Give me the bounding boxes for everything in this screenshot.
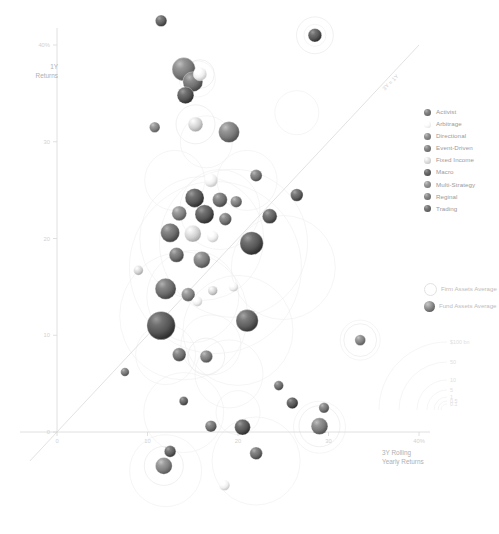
svg-text:40%: 40% [413,438,425,444]
bubble-point[interactable] [291,189,304,202]
legend-item-macro[interactable]: Macro [424,166,499,178]
bubble-point[interactable] [149,122,160,133]
bubble-point[interactable] [262,209,277,224]
firm-assets-circle-icon [424,283,437,296]
bubble-point[interactable] [155,458,172,475]
legend-sphere-icon [424,109,431,116]
bubble-point[interactable] [179,397,188,406]
bubble-chart: 010203040%010203040%3Y = 1Y 1Y Returns 3… [0,0,499,534]
legend-item-label: Fixed Income [436,157,474,163]
bubble-point[interactable] [172,348,186,362]
bubble-point[interactable] [193,67,207,81]
legend-sphere-icon [424,169,431,176]
svg-text:0: 0 [47,429,50,435]
legend-sphere-icon [424,121,431,128]
bubble-point[interactable] [229,282,239,292]
bubble-point[interactable] [161,223,180,242]
bubble-point[interactable] [192,296,202,306]
svg-text:30: 30 [44,139,50,145]
bubble-point[interactable] [287,397,299,409]
bubble-point[interactable] [147,311,175,339]
bubble-point[interactable] [193,251,210,268]
svg-text:10: 10 [144,438,150,444]
svg-text:0: 0 [55,438,58,444]
bubble-point[interactable] [240,232,263,255]
bubble-point[interactable] [250,170,262,182]
bubble-point[interactable] [177,87,194,104]
identity-reference-line [30,45,419,461]
bubble-point[interactable] [195,205,214,224]
legend-item-trading[interactable]: Trading [424,203,499,215]
bubble-point[interactable] [204,174,218,188]
legend-sphere-icon [424,157,431,164]
bubble-point[interactable] [169,248,184,263]
bubble-point[interactable] [155,15,167,27]
legend-item-label: Reginal [436,194,458,200]
legend-item-label: Event-Driven [436,145,473,151]
bubble-point[interactable] [188,117,203,132]
bubble-point[interactable] [205,420,217,432]
bubble-point[interactable] [250,447,263,460]
bubble-point[interactable] [184,225,201,242]
legend-item-label: Activist [436,109,456,115]
category-legend: ActivistArbitrageDirectionalEvent-Driven… [424,106,499,215]
bubble-point[interactable] [274,381,284,391]
size-scale-arcs [379,342,447,410]
x-axis-title: 3Y Rolling Yearly Returns [382,448,424,467]
bubble-series [121,15,366,491]
bubble-point[interactable] [219,480,230,491]
bubble-point[interactable] [230,196,242,208]
bubble-point[interactable] [319,403,329,413]
legend-item-activist[interactable]: Activist [424,106,499,118]
bubble-point[interactable] [213,192,228,207]
svg-text:30: 30 [325,438,331,444]
svg-text:20: 20 [235,438,241,444]
bubble-point[interactable] [308,29,322,43]
svg-text:10: 10 [44,332,50,338]
bubble-point[interactable] [207,231,219,243]
size-legend-fund-row: Fund Assets Average [424,301,499,312]
legend-sphere-icon [424,181,431,188]
svg-text:20: 20 [44,236,50,242]
bubble-point[interactable] [164,446,176,458]
bubble-point[interactable] [219,213,232,226]
bubble-point[interactable] [155,278,176,299]
legend-item-directional[interactable]: Directional [424,130,499,142]
legend-sphere-icon [424,133,431,140]
fund-assets-sphere-icon [424,301,435,312]
legend-item-label: Multi-Strategy [436,182,475,188]
legend-sphere-icon [424,193,431,200]
legend-item-label: Macro [436,169,454,175]
legend-item-reginal[interactable]: Reginal [424,191,499,203]
bubble-point[interactable] [185,188,204,207]
svg-text:40%: 40% [38,42,50,48]
legend-item-label: Arbitrage [436,121,462,127]
legend-item-arbitrage[interactable]: Arbitrage [424,118,499,130]
fund-assets-label: Fund Assets Average [439,302,496,310]
legend-item-fixed-income[interactable]: Fixed Income [424,154,499,166]
bubble-point[interactable] [200,350,213,363]
firm-assets-label: Firm Assets Average [441,285,497,293]
size-legend: Firm Assets Average Fund Assets Average [424,283,499,317]
legend-sphere-icon [424,145,431,152]
bubble-point[interactable] [355,335,366,346]
legend-item-label: Directional [436,133,466,139]
legend-item-label: Trading [436,206,457,212]
bubble-point[interactable] [208,286,218,296]
size-legend-firm-row: Firm Assets Average [424,283,499,296]
plot-area: 010203040%010203040%3Y = 1Y [0,0,499,534]
axis-ticks: 010203040%010203040% [38,42,424,444]
bubble-point[interactable] [172,206,187,221]
legend-sphere-icon [424,205,431,212]
bubble-point[interactable] [121,368,130,377]
bubble-point[interactable] [235,419,251,435]
bubble-point[interactable] [219,122,240,143]
legend-item-multi-strategy[interactable]: Multi-Strategy [424,179,499,191]
legend-item-event-driven[interactable]: Event-Driven [424,142,499,154]
bubble-point[interactable] [236,310,258,332]
y-axis-title: 1Y Returns [20,62,58,81]
bubble-point[interactable] [311,418,328,435]
bubble-point[interactable] [134,266,144,276]
firm-asset-halos [120,17,381,507]
